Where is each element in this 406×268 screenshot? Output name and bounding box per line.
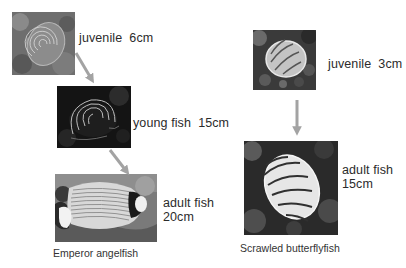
juvenile-emperor-angelfish-photo bbox=[12, 12, 75, 75]
adult-emperor-angelfish-photo bbox=[55, 174, 157, 242]
young-emperor-angelfish-photo bbox=[57, 86, 131, 148]
stage-label-adult-butterflyfish: adult fish15cm bbox=[342, 163, 393, 191]
stage-label-adult-angelfish-line1: adult fish bbox=[163, 196, 214, 210]
stage-label-juvenile-butterflyfish: juvenile 3cm bbox=[328, 57, 402, 71]
stage-label-adult-butterflyfish-line2: 15cm bbox=[342, 177, 373, 191]
stage-label-adult-butterflyfish-line1: adult fish bbox=[342, 163, 393, 177]
stage-label-adult-angelfish-line2: 20cm bbox=[163, 210, 194, 224]
stage-label-adult-angelfish: adult fish20cm bbox=[163, 196, 214, 224]
stage-label-juvenile-angelfish: juvenile 6cm bbox=[79, 31, 153, 45]
species-caption-emperor-angelfish: Emperor angelfish bbox=[53, 247, 138, 259]
juvenile-scrawled-butterflyfish-photo bbox=[253, 30, 316, 90]
adult-scrawled-butterflyfish-photo bbox=[244, 141, 338, 235]
species-caption-scrawled-butterflyfish: Scrawled butterflyfish bbox=[240, 242, 340, 254]
arrow-juvenile-to-young-angelfish bbox=[76, 53, 92, 80]
stage-label-young-angelfish: young fish 15cm bbox=[133, 116, 229, 130]
arrow-young-to-adult-angelfish bbox=[110, 150, 127, 172]
